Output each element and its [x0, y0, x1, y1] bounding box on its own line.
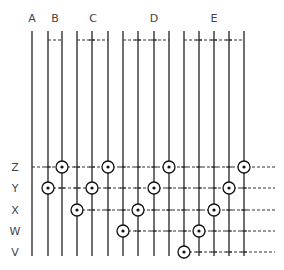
- node-dot: [106, 165, 109, 168]
- node-dot: [152, 186, 155, 189]
- node-dot: [75, 208, 78, 211]
- node-dot: [46, 186, 49, 189]
- grid-diagram: ABCDE ZYXWV: [0, 0, 284, 270]
- node-dot: [197, 229, 200, 232]
- group-label-a: A: [28, 12, 36, 25]
- group-label-b: B: [51, 12, 59, 25]
- node-dot: [121, 229, 124, 232]
- group-label-e: E: [211, 12, 218, 25]
- row-label-v: V: [11, 246, 19, 259]
- group-label-d: D: [150, 12, 158, 25]
- node-dot: [60, 165, 63, 168]
- row-label-z: Z: [11, 161, 19, 174]
- node-dot: [242, 165, 245, 168]
- node-dot: [136, 208, 139, 211]
- node-dot: [90, 186, 93, 189]
- node-dot: [227, 186, 230, 189]
- node-dot: [182, 250, 185, 253]
- row-label-w: W: [10, 225, 21, 238]
- row-v: [178, 246, 275, 258]
- row-w: [117, 225, 275, 237]
- row-label-y: Y: [11, 182, 19, 195]
- group-label-c: C: [89, 12, 97, 25]
- vertical-lines: [32, 31, 244, 256]
- row-label-x: X: [11, 204, 19, 217]
- group-labels: ABCDE: [28, 12, 217, 25]
- row-labels: ZYXWV: [10, 161, 21, 259]
- node-dot: [212, 208, 215, 211]
- node-dot: [167, 165, 170, 168]
